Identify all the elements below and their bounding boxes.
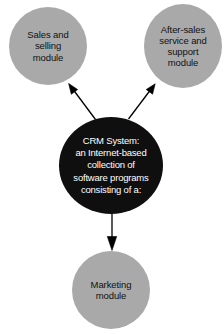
hub-label-crm-system: CRM System: an Internet-based collection… [73,135,148,196]
module-node-after-sales-service-and-support[interactable]: After-sales service and support module [144,4,222,88]
module-node-marketing[interactable]: Marketing module [72,251,150,329]
module-node-sales-and-selling[interactable]: Sales and selling module [9,7,87,85]
arrow-crm-to-sales [69,83,96,119]
module-label-sales-and-selling: Sales and selling module [27,29,68,63]
arrow-crm-to-marketing [107,214,116,251]
crm-system-diagram: Sales and selling module After-sales ser… [0,0,224,334]
module-label-marketing: Marketing module [91,279,132,301]
hub-node-crm-system[interactable]: CRM System: an Internet-based collection… [59,117,163,214]
module-label-after-sales-service-and-support: After-sales service and support module [159,24,206,69]
arrow-crm-to-after-sales [129,84,156,119]
